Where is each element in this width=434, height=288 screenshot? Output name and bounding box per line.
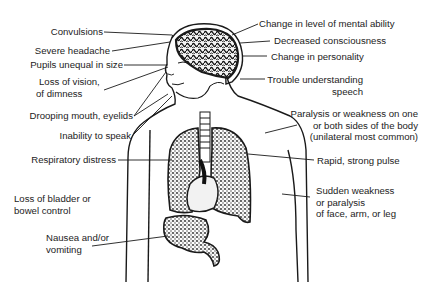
label-respiratory-distress: Respiratory distress (10, 154, 116, 166)
label-line: Trouble understanding (265, 74, 363, 86)
label-line: of face, arm, or leg (316, 208, 396, 220)
label-line: Paralysis or weakness on one (285, 108, 418, 120)
label-convulsions: Convulsions (30, 26, 103, 38)
label-loss-of-bladder: Loss of bladder or bowel control (14, 193, 91, 216)
label-trouble-understanding: Trouble understanding speech (265, 74, 363, 97)
right-lung (211, 128, 251, 223)
label-decreased-consciousness: Decreased consciousness (274, 35, 386, 47)
label-pupils-unequal: Pupils unequal in size (6, 59, 123, 71)
label-line: Sudden weakness (316, 185, 396, 197)
label-paralysis-one-side: Paralysis or weakness on one or both sid… (285, 108, 418, 143)
label-drooping-mouth: Drooping mouth, eyelids (4, 110, 133, 122)
label-line: or both sides of the body (285, 120, 418, 132)
label-line: bowel control (14, 205, 91, 217)
label-sudden-weakness: Sudden weakness or paralysis of face, ar… (316, 185, 396, 220)
stomach (164, 215, 220, 266)
label-line: Nausea and/or (46, 232, 109, 244)
label-line: speech (265, 86, 363, 98)
label-rapid-pulse: Rapid, strong pulse (317, 155, 400, 167)
trachea (200, 112, 210, 162)
label-change-personality: Change in personality (271, 51, 364, 63)
label-line: (unilateral most common) (285, 131, 418, 143)
label-inability-to-speak: Inability to speak (40, 130, 131, 142)
label-line: Loss of vision, (39, 76, 100, 88)
label-change-mental-ability: Change in level of mental ability (259, 18, 394, 30)
stroke-symptoms-diagram: Convulsions Severe headache Pupils unequ… (0, 0, 434, 288)
label-severe-headache: Severe headache (20, 45, 110, 57)
brain (176, 29, 238, 78)
label-line: vomiting (46, 244, 109, 256)
label-nausea: Nausea and/or vomiting (46, 232, 109, 255)
label-line: or paralysis (316, 197, 396, 209)
label-line: Loss of bladder or (14, 193, 91, 205)
label-line: of dimness (36, 88, 100, 100)
label-loss-of-vision: Loss of vision, of dimness (39, 76, 100, 99)
